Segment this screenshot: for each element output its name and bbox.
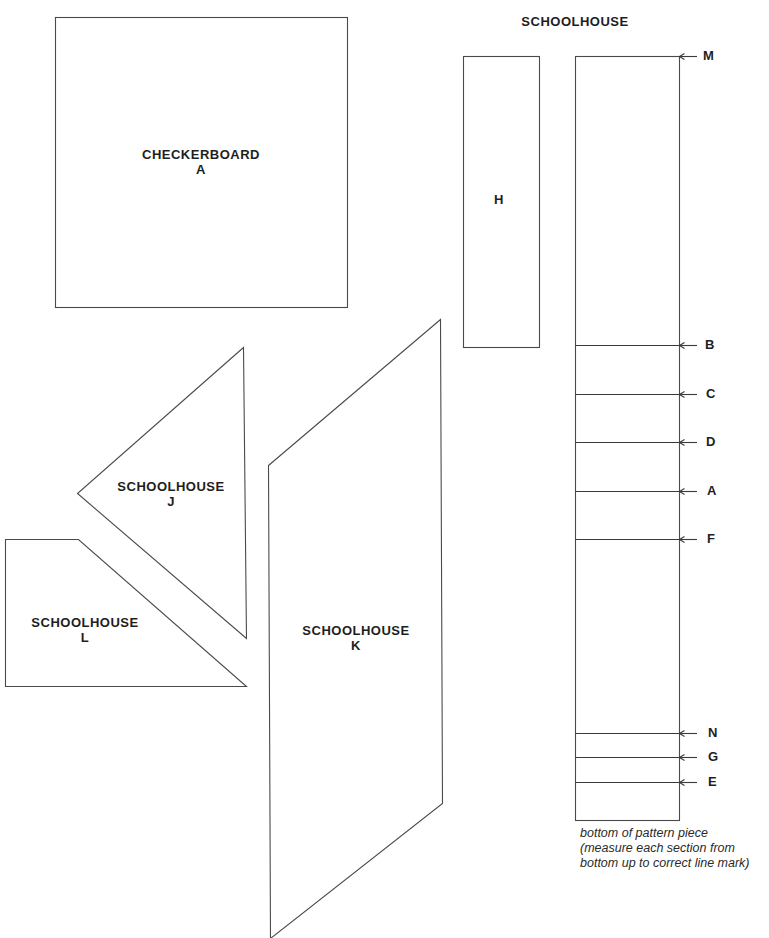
schoolhouse-strip-outline <box>576 57 680 821</box>
schoolhouse-l-outline <box>6 540 247 687</box>
mark-letter-m: M <box>703 49 714 63</box>
schoolhouse-j-letter: J <box>110 494 232 509</box>
caption-line-1: bottom of pattern piece <box>580 826 750 841</box>
checkerboard-a-letter: A <box>121 162 281 177</box>
measurement-caption: bottom of pattern piece (measure each se… <box>580 826 750 871</box>
schoolhouse-k-letter: K <box>295 638 417 653</box>
mark-letter-a: A <box>707 484 716 498</box>
pattern-drawing <box>0 0 769 938</box>
mark-letter-c: C <box>706 387 715 401</box>
schoolhouse-j-label: SCHOOLHOUSE J <box>110 479 232 509</box>
mark-letter-e: E <box>708 775 717 789</box>
schoolhouse-l-letter: L <box>24 630 146 645</box>
schoolhouse-j-name: SCHOOLHOUSE <box>110 479 232 494</box>
mark-letter-f: F <box>707 532 715 546</box>
schoolhouse-l-label: SCHOOLHOUSE L <box>24 615 146 645</box>
pattern-sheet: SCHOOLHOUSE CHECKERBOARD A H SCHOOLHOUSE… <box>0 0 769 938</box>
page-title: SCHOOLHOUSE <box>515 14 635 29</box>
checkerboard-a-name: CHECKERBOARD <box>121 147 281 162</box>
schoolhouse-h-label: H <box>477 192 521 207</box>
schoolhouse-l-name: SCHOOLHOUSE <box>24 615 146 630</box>
schoolhouse-k-name: SCHOOLHOUSE <box>295 623 417 638</box>
checkerboard-a-label: CHECKERBOARD A <box>121 147 281 177</box>
mark-letter-n: N <box>708 726 717 740</box>
caption-line-2: (measure each section from <box>580 841 750 856</box>
mark-letter-d: D <box>706 435 715 449</box>
mark-letter-b: B <box>705 338 714 352</box>
caption-line-3: bottom up to correct line mark) <box>580 856 750 871</box>
strip-mark-lines <box>576 54 698 786</box>
mark-letter-g: G <box>708 750 718 764</box>
schoolhouse-k-label: SCHOOLHOUSE K <box>295 623 417 653</box>
